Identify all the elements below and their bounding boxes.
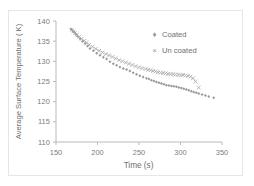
data-point-coated	[170, 84, 173, 87]
data-point-coated	[165, 84, 168, 87]
data-point-coated	[197, 92, 200, 95]
y-tick-label: 135	[28, 37, 50, 46]
data-point-coated	[172, 85, 175, 88]
data-point-uncoated	[121, 59, 125, 63]
legend-label-coated: Coated	[162, 30, 187, 39]
data-point-coated	[180, 86, 183, 89]
data-point-coated	[190, 90, 193, 93]
data-point-coated	[89, 47, 92, 50]
data-point-coated	[207, 95, 210, 98]
data-point-uncoated	[134, 64, 138, 68]
plot-canvas	[0, 0, 254, 186]
data-point-uncoated	[137, 65, 141, 69]
data-point-coated	[167, 84, 170, 87]
data-point-coated	[157, 81, 160, 84]
data-point-coated	[118, 65, 121, 68]
y-tick-label: 115	[28, 117, 50, 126]
data-point-coated	[177, 86, 180, 89]
y-tick-label: 110	[28, 138, 50, 147]
x-axis-title: Time (s)	[56, 161, 221, 170]
x-tick-label: 350	[209, 148, 235, 157]
legend-label-uncoated: Un coated	[162, 46, 197, 55]
y-tick-label: 120	[28, 97, 50, 106]
data-point-coated	[201, 93, 204, 96]
data-point-coated	[102, 56, 105, 59]
data-point-coated	[145, 77, 148, 80]
data-point-coated	[152, 80, 155, 83]
data-point-coated	[105, 57, 108, 60]
data-point-coated	[204, 94, 207, 97]
data-point-coated	[142, 76, 145, 79]
x-tick-label: 300	[168, 148, 194, 157]
series-coated-points	[69, 28, 215, 100]
x-tick-label: 200	[85, 148, 111, 157]
legend-item-coated: ♦ Coated	[151, 30, 187, 39]
x-marker-icon: ×	[151, 47, 158, 54]
data-point-coated	[192, 90, 195, 93]
data-point-coated	[175, 85, 178, 88]
y-tick-label: 125	[28, 77, 50, 86]
chart-figure: 110115120125130135140 150200250300350 Ti…	[0, 0, 254, 186]
data-point-uncoated	[197, 86, 201, 90]
data-point-coated	[132, 71, 135, 74]
y-axis-title: Average Surface Temperature ( K)	[14, 22, 23, 142]
data-point-uncoated	[194, 80, 198, 84]
diamond-marker-icon: ♦	[151, 31, 158, 38]
data-point-coated	[182, 87, 185, 90]
legend-item-uncoated: × Un coated	[151, 46, 197, 55]
data-point-coated	[155, 80, 158, 83]
x-tick-label: 250	[126, 148, 152, 157]
data-point-uncoated	[140, 66, 144, 70]
data-point-coated	[195, 91, 198, 94]
x-tick-label: 150	[43, 148, 69, 157]
data-point-coated	[147, 78, 150, 81]
data-point-coated	[135, 73, 138, 76]
data-point-uncoated	[130, 63, 134, 67]
data-point-coated	[122, 67, 125, 70]
data-point-coated	[185, 88, 188, 91]
data-point-coated	[112, 62, 115, 65]
data-point-coated	[128, 70, 131, 73]
data-point-coated	[138, 74, 141, 77]
data-point-coated	[212, 96, 215, 99]
data-point-coated	[187, 89, 190, 92]
data-point-uncoated	[124, 61, 128, 65]
data-point-coated	[162, 83, 165, 86]
data-point-coated	[125, 68, 128, 71]
data-point-coated	[108, 60, 111, 63]
data-point-uncoated	[127, 62, 131, 66]
y-tick-label: 130	[28, 57, 50, 66]
data-point-coated	[115, 64, 118, 67]
data-point-coated	[150, 79, 153, 82]
y-tick-label: 140	[28, 17, 50, 26]
data-point-uncoated	[94, 47, 98, 51]
data-point-coated	[160, 82, 163, 85]
